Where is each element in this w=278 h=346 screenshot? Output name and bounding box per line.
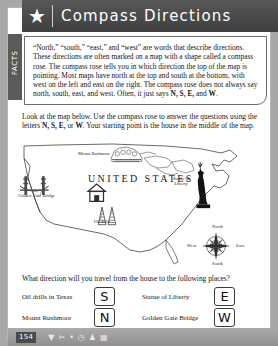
question-label: Statue of Liberty [142,293,214,301]
map-label-golden-gate-bridge: Golden Gate Bridge [18,193,55,198]
facts-tab: FACTS [8,34,22,100]
question-label: Mount Rushmore [22,314,94,322]
map-label-statue-of-liberty: Statue of Liberty [168,176,194,187]
instructions-bold-1: N, S, E, [42,121,66,130]
header-divider [52,5,53,27]
question-row: Mount Rushmore N Golden Gate Bridge W [22,307,262,328]
questions-prompt: What direction will you travel from the … [22,274,230,283]
facts-period: . [216,89,218,98]
worksheet-page: ★ Compass Directions FACTS “North,” “sou… [0,0,278,346]
facts-box: “North,” “south,” “east,” and “west” are… [24,36,267,105]
answer-box[interactable]: W [214,308,235,327]
question-item: Golden Gate Bridge W [142,308,262,327]
instructions-part-2: or [66,121,76,130]
page-number: 154 [16,332,36,343]
questions-grid: Oil drills in Texas S Statue of Liberty … [22,286,262,328]
compass-label-east: East [236,243,244,248]
question-label: Oil drills in Texas [22,293,94,301]
answer-box[interactable]: N [94,308,115,327]
map-label-oil-drills: Oil drills [94,219,110,224]
page-footer: 154 ▼ ✂ • ◷ ♟ ▦ [8,328,278,346]
facts-tab-label: FACTS [11,61,19,75]
people-icon: ♟ [89,333,96,342]
question-item: Oil drills in Texas S [22,287,142,306]
question-item: Statue of Liberty E [142,287,262,306]
dot-icon: • [69,333,74,342]
map-illustration: UNITED STATES Mount Rushmore Golden Gate… [16,140,266,268]
grid-icon: ▦ [100,333,108,342]
map-label-mount-rushmore: Mount Rushmore [78,151,110,156]
answer-box[interactable]: E [214,287,235,306]
footer-icon-row: ▼ ✂ • ◷ ♟ ▦ [48,333,107,342]
facts-paragraph: “North,” “south,” “east,” and “west” are… [33,43,258,99]
instructions-bold-2: W [75,121,82,130]
facts-join: and [194,89,208,98]
question-label: Golden Gate Bridge [142,314,214,322]
funnel-icon: ▼ [48,333,54,342]
compass-rose-labels: North South East West [186,224,248,268]
facts-bold-w: W [209,89,216,98]
facts-body: “North,” “south,” “east,” and “west” are… [33,43,257,98]
star-icon: ★ [22,0,52,32]
question-item: Mount Rushmore N [22,308,142,327]
instructions: Look at the map below. Use the compass r… [22,112,262,131]
page-title: Compass Directions [61,7,232,25]
instructions-part-3: . Your starting point is the house in th… [83,121,255,130]
question-row: Oil drills in Texas S Statue of Liberty … [22,286,262,307]
answer-box[interactable]: S [94,287,115,306]
compass-label-west: West [187,243,196,248]
compass-label-south: South [212,261,223,266]
compass-label-north: North [212,224,223,229]
scissors-icon: ✂ [58,333,65,342]
clock-icon: ◷ [78,333,85,342]
facts-bold-letters: N, S, E, [171,89,195,98]
page-header: ★ Compass Directions [22,0,278,32]
